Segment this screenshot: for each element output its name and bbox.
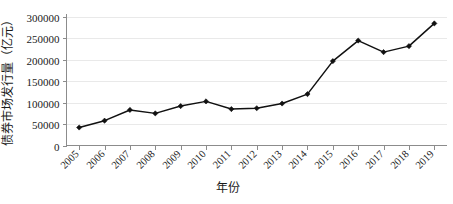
y-tick-label: 50000	[32, 119, 60, 131]
chart-container: 050000100000150000200000250000300000 200…	[0, 0, 453, 204]
line-chart: 050000100000150000200000250000300000 200…	[0, 0, 453, 204]
y-tick-label: 250000	[27, 33, 61, 45]
plot-background	[0, 0, 453, 204]
x-axis-title: 年份	[216, 181, 240, 195]
y-tick-label: 100000	[27, 98, 61, 110]
y-tick-label: 300000	[27, 12, 61, 24]
y-axis-title: 债券市场发行量（亿元）	[0, 14, 15, 146]
y-tick-label: 150000	[27, 76, 61, 88]
y-tick-label: 0	[54, 141, 60, 153]
y-tick-label: 200000	[27, 55, 61, 67]
